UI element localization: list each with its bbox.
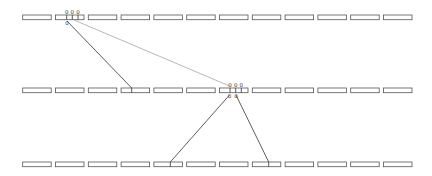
edge-line: [74, 20, 230, 86]
array-box: [220, 15, 249, 20]
array-box: [154, 88, 183, 93]
edge-line: [236, 95, 269, 162]
row-bottom: [23, 162, 412, 167]
array-box: [384, 162, 413, 167]
array-box: [384, 88, 413, 93]
array-box: [23, 15, 52, 20]
array-box: [285, 15, 314, 20]
array-box: [121, 88, 150, 93]
node-bottom-label: 0: [234, 93, 238, 99]
array-box: [154, 162, 183, 167]
array-box: [23, 88, 52, 93]
row-top: [23, 15, 412, 20]
pointer-diagram: 000000000: [0, 0, 432, 176]
edges: [67, 20, 269, 167]
array-box: [56, 15, 85, 20]
array-box: [56, 162, 85, 167]
array-box: [285, 162, 314, 167]
array-box: [318, 88, 347, 93]
array-box: [384, 15, 413, 20]
array-box: [252, 88, 280, 93]
array-box: [285, 88, 314, 93]
node-bottom-label: 0: [228, 93, 232, 99]
array-box: [88, 15, 117, 20]
array-box: [220, 88, 249, 93]
node-top-label: 0: [65, 9, 69, 15]
array-box: [318, 162, 347, 167]
array-box: [351, 15, 380, 20]
node-top-label: 0: [228, 82, 232, 88]
node-top-label: 0: [71, 9, 75, 15]
array-box: [88, 88, 117, 93]
node-top-label: 0: [76, 9, 80, 15]
array-box: [88, 162, 117, 167]
array-box: [154, 15, 183, 20]
row-middle: [23, 88, 412, 93]
array-box: [318, 15, 347, 20]
array-box: [220, 162, 249, 167]
array-box: [187, 162, 216, 167]
array-box: [187, 15, 216, 20]
array-rows: [23, 15, 412, 167]
array-box: [351, 88, 380, 93]
array-box: [121, 15, 150, 20]
node-top-label: 0: [240, 82, 244, 88]
edge-line: [170, 95, 229, 162]
array-box: [252, 15, 280, 20]
node-top-label: 0: [234, 82, 238, 88]
array-box: [351, 162, 380, 167]
node-bottom-label: 0: [65, 20, 69, 26]
array-box: [187, 88, 216, 93]
array-box: [121, 162, 150, 167]
array-box: [252, 162, 280, 167]
array-box: [23, 162, 52, 167]
array-box: [56, 88, 85, 93]
